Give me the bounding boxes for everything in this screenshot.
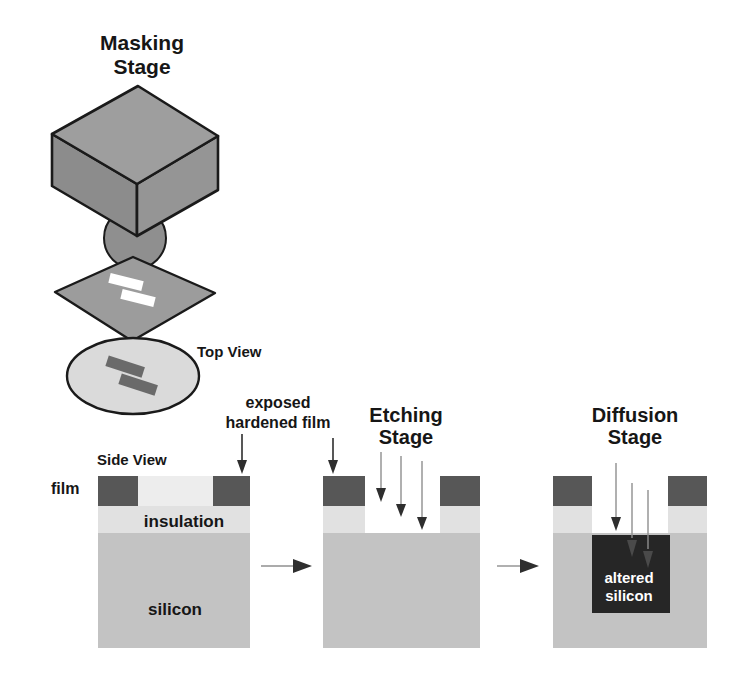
- masking-stage-title-line2: Stage: [100, 55, 184, 79]
- side-view-block-diffusion: [553, 476, 707, 648]
- arrow-down-icon: [328, 460, 338, 474]
- diffusion-stage-title-line2: Stage: [592, 426, 679, 448]
- diffusion-stage-title: Diffusion Stage: [592, 404, 679, 448]
- insulation-left: [553, 506, 592, 533]
- masking-assembly: [52, 86, 218, 414]
- insulation-right: [440, 506, 480, 533]
- silicon-substrate: [98, 533, 250, 648]
- insulation-left: [323, 506, 365, 533]
- arrow-right-icon: [520, 559, 539, 573]
- fabrication-process-diagram: Masking Stage Top View exposed hardened …: [0, 0, 736, 686]
- wafer-shape: [67, 338, 199, 414]
- arrow-down-icon: [611, 517, 621, 531]
- film-hardened-right: [440, 476, 480, 506]
- film-hardened-right: [668, 476, 707, 506]
- flow-arrow-masking-to-etching: [261, 559, 312, 573]
- exposed-hardened-film-label: exposed hardened film: [226, 393, 331, 433]
- film-hardened-left: [323, 476, 365, 506]
- masking-stage-title-line1: Masking: [100, 31, 184, 55]
- arrow-down-icon: [237, 460, 247, 474]
- silicon-substrate: [323, 533, 480, 648]
- arrow-down-icon: [396, 504, 406, 517]
- exposed-label-line1: exposed: [226, 393, 331, 413]
- mask-plate: [55, 257, 215, 341]
- wafer-top-view: [67, 338, 199, 414]
- exposed-label-line2: hardened film: [226, 413, 331, 433]
- top-view-label: Top View: [197, 344, 261, 360]
- exposure-cube: [52, 86, 218, 236]
- film-soft-center: [138, 476, 213, 506]
- flow-arrow-etching-to-diffusion: [497, 559, 539, 573]
- altered-silicon-label-line2: silicon: [604, 587, 653, 605]
- exposed-film-arrow-right: [328, 438, 338, 474]
- etching-stage-title-line2: Stage: [369, 426, 442, 448]
- masking-stage-title: Masking Stage: [100, 31, 184, 79]
- insulation-right: [668, 506, 707, 533]
- diffusion-stage-title-line1: Diffusion: [592, 404, 679, 426]
- side-view-block-masking: [98, 476, 250, 648]
- film-hardened-left: [98, 476, 138, 506]
- etching-stage-title: Etching Stage: [369, 404, 442, 448]
- film-hardened-right: [213, 476, 250, 506]
- silicon-label: silicon: [148, 601, 202, 619]
- arrow-right-icon: [293, 559, 312, 573]
- insulation-label: insulation: [144, 513, 224, 531]
- exposed-film-arrow-left: [237, 434, 247, 474]
- altered-silicon-label: altered silicon: [604, 569, 653, 605]
- altered-silicon-label-line1: altered: [604, 569, 653, 587]
- etching-arrows: [376, 452, 427, 530]
- side-view-label: Side View: [97, 452, 167, 468]
- etching-stage-title-line1: Etching: [369, 404, 442, 426]
- arrow-down-icon: [417, 517, 427, 530]
- film-label: film: [51, 481, 79, 497]
- arrow-down-icon: [376, 488, 386, 502]
- film-hardened-left: [553, 476, 592, 506]
